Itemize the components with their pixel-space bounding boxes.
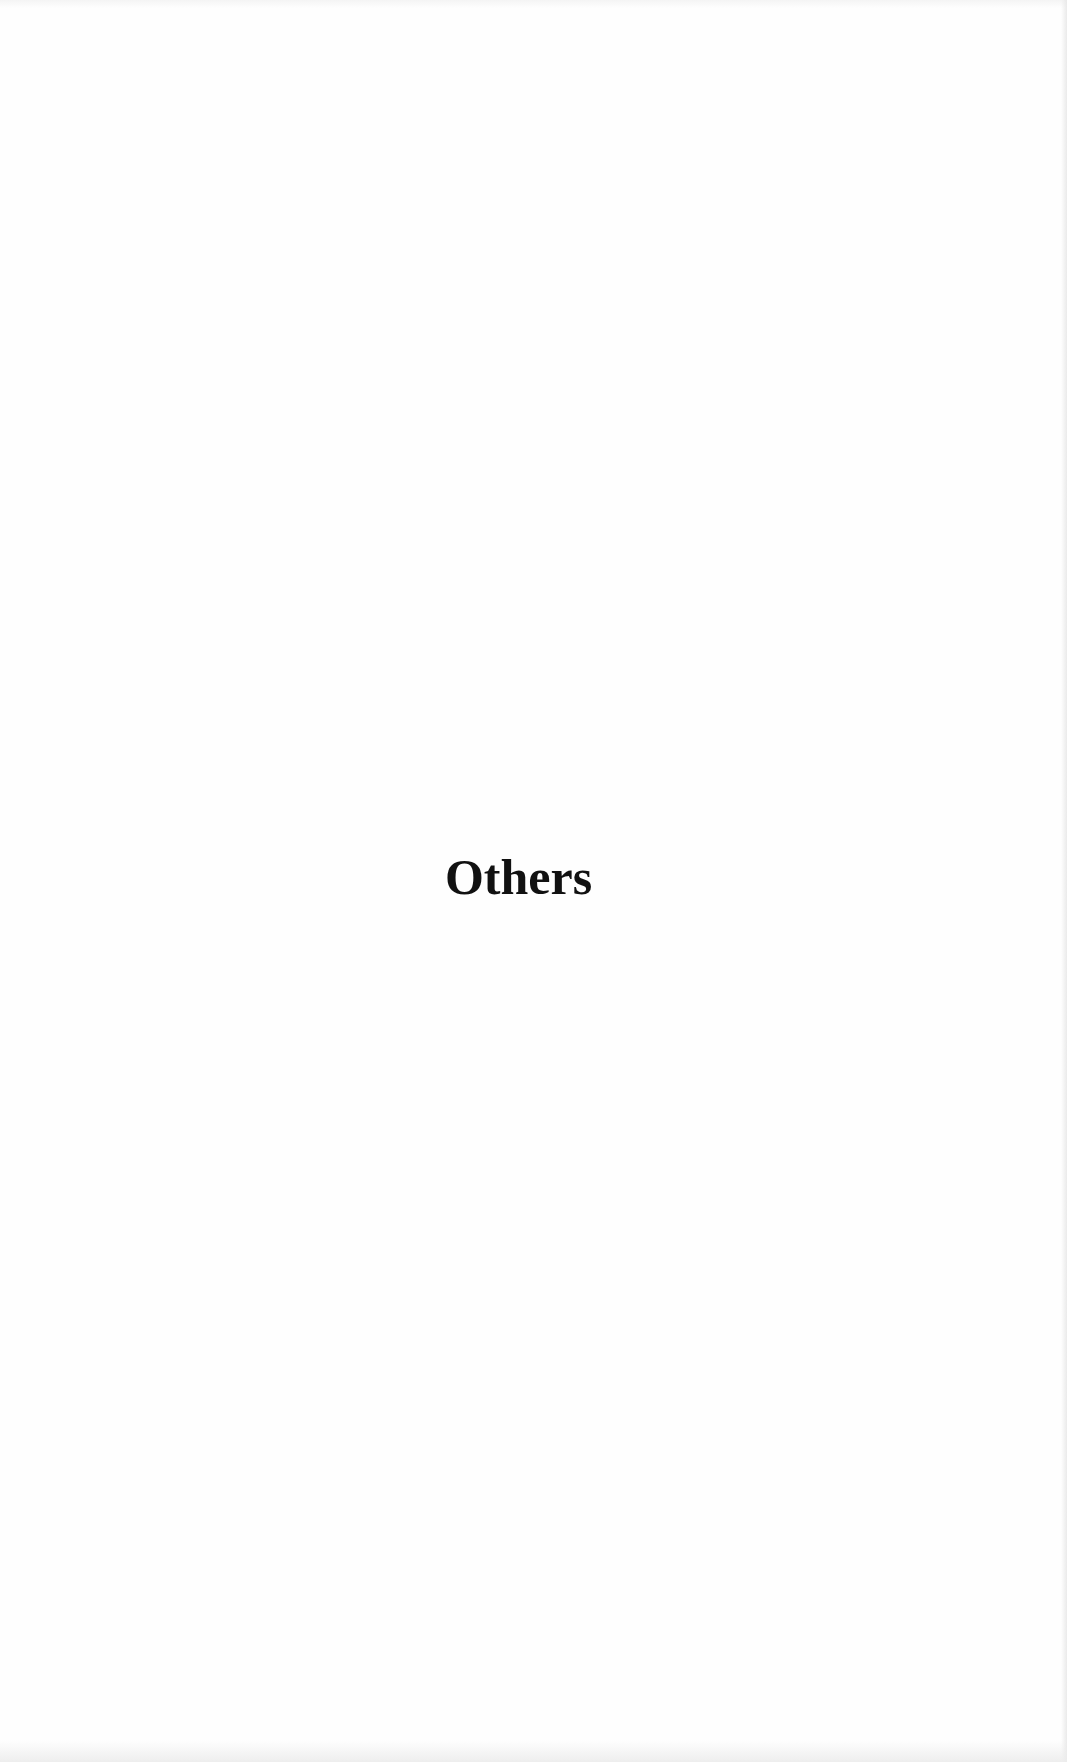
document-page: Others	[0, 0, 1067, 1762]
scan-edge-bottom	[0, 1740, 1067, 1762]
scan-edge-top	[0, 0, 1067, 8]
scan-edge-right	[1061, 0, 1067, 1762]
section-title: Others	[0, 848, 1037, 906]
